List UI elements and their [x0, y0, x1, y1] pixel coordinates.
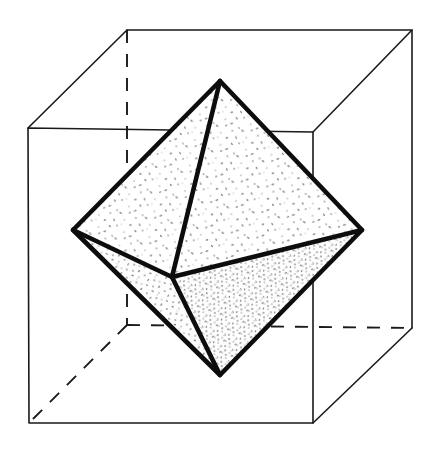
octahedron-in-cube-figure: Octahedron inscribed in a cube Line draw… [0, 0, 438, 453]
figure-container: Octahedron inscribed in a cube Line draw… [0, 0, 438, 453]
